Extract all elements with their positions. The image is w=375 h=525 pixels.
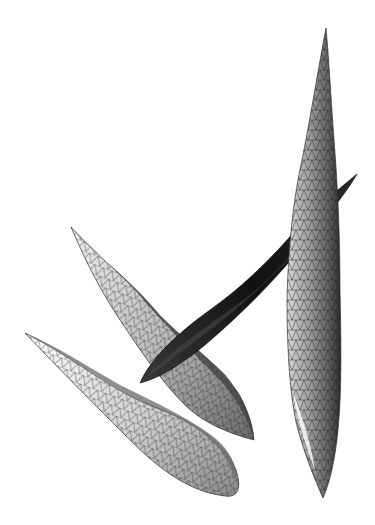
tall-vertical-leaf <box>287 28 341 498</box>
leaf-mesh-figure: 3D triangulated surface meshes of four l… <box>0 0 375 525</box>
mesh-canvas <box>0 0 375 525</box>
